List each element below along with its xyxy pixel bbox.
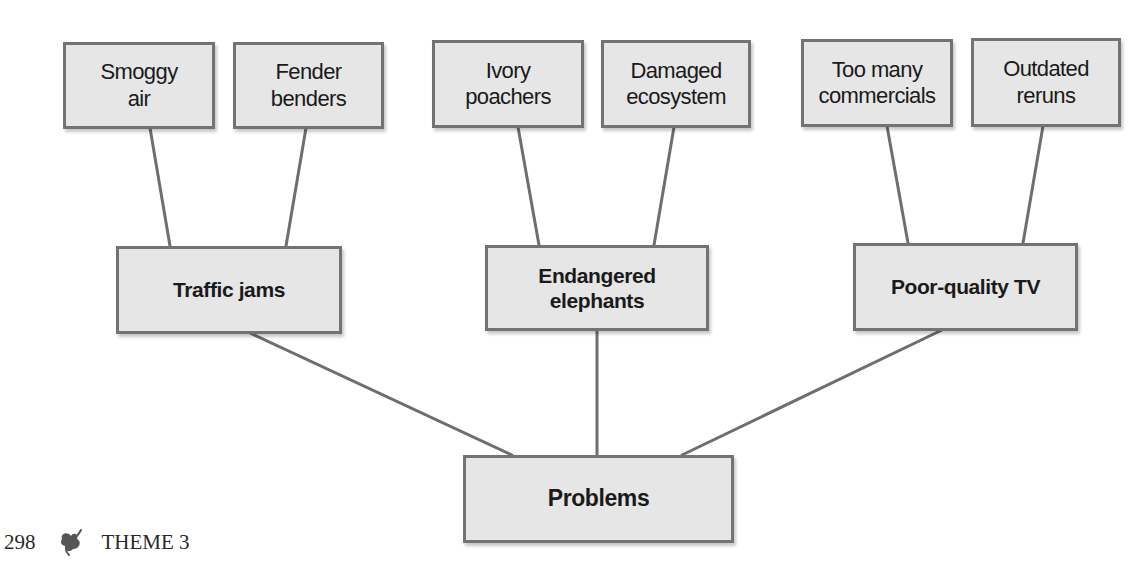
leaf-line: reruns xyxy=(1017,83,1076,109)
branch-label: elephants xyxy=(550,288,644,313)
branch-label: Traffic jams xyxy=(173,277,285,302)
leaf-line: Fender xyxy=(275,59,341,85)
root-label: Problems xyxy=(548,485,650,513)
leaf-swirl-icon xyxy=(56,527,86,557)
leaf-line: ecosystem xyxy=(626,84,726,110)
connector-damaged-elephants xyxy=(654,127,674,245)
connector-smoggy-traffic xyxy=(150,128,170,246)
root-problems: Problems xyxy=(463,455,734,543)
connector-ivory-elephants xyxy=(518,127,539,245)
branch-endangered-elephants: Endangered elephants xyxy=(485,245,709,331)
connector-commercials-tv xyxy=(887,126,908,243)
leaf-line: Too many xyxy=(832,57,923,83)
leaf-line: Ivory xyxy=(486,58,531,84)
leaf-line: benders xyxy=(271,86,346,112)
leaf-line: commercials xyxy=(819,83,936,109)
leaf-line: Outdated xyxy=(1003,56,1089,82)
leaf-line: Damaged xyxy=(630,58,721,84)
branch-label: Endangered xyxy=(538,263,655,288)
leaf-too-many-commercials: Too many commercials xyxy=(801,39,953,127)
page-footer: 298 THEME 3 xyxy=(4,527,190,557)
section-label: THEME 3 xyxy=(102,530,190,555)
leaf-ivory-poachers: Ivory poachers xyxy=(432,40,584,128)
branch-traffic-jams: Traffic jams xyxy=(116,246,342,334)
page-number: 298 xyxy=(4,530,36,555)
branch-label: Poor-quality TV xyxy=(891,274,1040,299)
connector-fender-traffic xyxy=(286,128,306,246)
leaf-line: air xyxy=(128,86,151,112)
branch-poor-quality-tv: Poor-quality TV xyxy=(853,243,1078,331)
leaf-fender-benders: Fender benders xyxy=(233,42,384,129)
leaf-smoggy-air: Smoggy air xyxy=(63,42,215,129)
leaf-outdated-reruns: Outdated reruns xyxy=(971,38,1121,127)
connector-tv-problems xyxy=(682,330,942,455)
leaf-line: poachers xyxy=(465,84,551,110)
leaf-damaged-ecosystem: Damaged ecosystem xyxy=(601,40,751,128)
connector-traffic-problems xyxy=(250,333,512,455)
connector-reruns-tv xyxy=(1023,126,1043,243)
leaf-line: Smoggy xyxy=(100,59,177,85)
